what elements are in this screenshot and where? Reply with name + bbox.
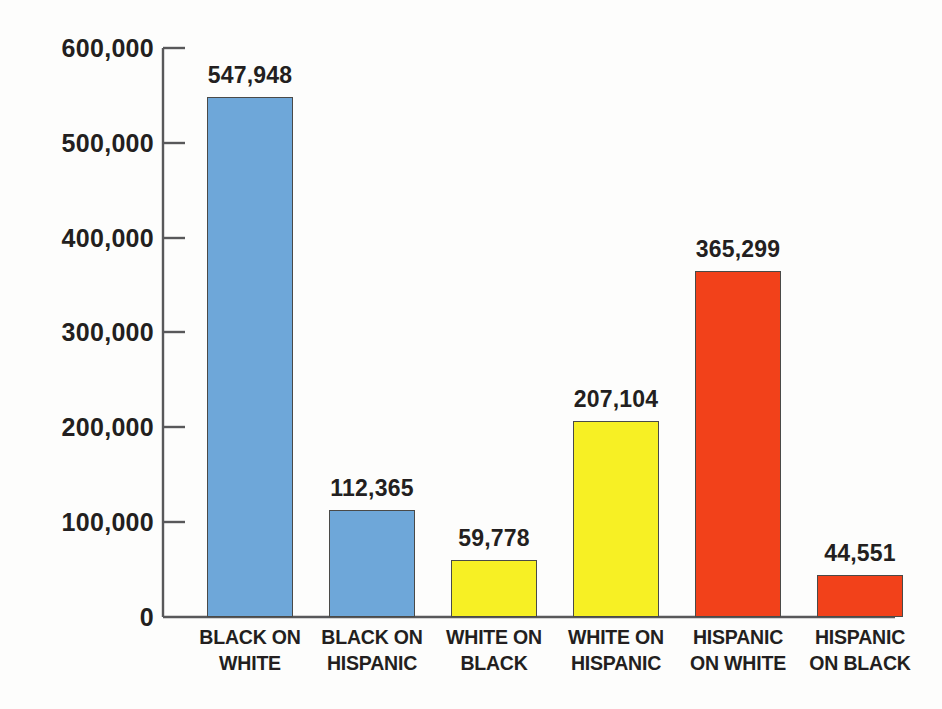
y-tick-label-500000: 500,000 xyxy=(18,129,154,158)
y-tick-label-600000: 600,000 xyxy=(18,34,154,63)
x-category-label-black-on-white: BLACK ON WHITE xyxy=(180,624,320,677)
x-category-line: WHITE ON xyxy=(546,624,686,650)
x-category-line: WHITE xyxy=(180,650,320,676)
bar-value-label: 365,299 xyxy=(696,236,781,263)
x-category-label-black-on-hispanic: BLACK ON HISPANIC xyxy=(302,624,442,677)
x-category-line: HISPANIC xyxy=(790,624,930,650)
x-category-line: ON BLACK xyxy=(790,650,930,676)
bar-rect[interactable] xyxy=(573,421,659,617)
x-category-label-white-on-black: WHITE ON BLACK xyxy=(424,624,564,677)
bar-group-hispanic-on-black[interactable]: 44,551 xyxy=(817,48,903,617)
x-category-line: WHITE ON xyxy=(424,624,564,650)
y-tick-label-300000: 300,000 xyxy=(18,318,154,347)
bar-value-label: 44,551 xyxy=(824,540,896,567)
bar-value-label: 59,778 xyxy=(458,525,530,552)
x-category-line: HISPANIC xyxy=(668,624,808,650)
bar-group-white-on-black[interactable]: 59,778 xyxy=(451,48,537,617)
bar-value-label: 112,365 xyxy=(330,475,413,502)
bar-rect[interactable] xyxy=(817,575,903,617)
y-tick-label-200000: 200,000 xyxy=(18,413,154,442)
x-category-line: HISPANIC xyxy=(302,650,442,676)
x-category-line: HISPANIC xyxy=(546,650,686,676)
x-category-label-white-on-hispanic: WHITE ON HISPANIC xyxy=(546,624,686,677)
x-category-line: BLACK ON xyxy=(180,624,320,650)
bar-rect[interactable] xyxy=(207,97,293,617)
bar-rect[interactable] xyxy=(329,510,415,617)
bar-group-white-on-hispanic[interactable]: 207,104 xyxy=(573,48,659,617)
bar-rect[interactable] xyxy=(695,271,781,617)
x-category-line: ON WHITE xyxy=(668,650,808,676)
x-category-label-hispanic-on-black: HISPANIC ON BLACK xyxy=(790,624,930,677)
bar-group-hispanic-on-white[interactable]: 365,299 xyxy=(695,48,781,617)
x-category-line: BLACK ON xyxy=(302,624,442,650)
x-axis: BLACK ON WHITE BLACK ON HISPANIC WHITE O… xyxy=(163,624,895,704)
bar-group-black-on-hispanic[interactable]: 112,365 xyxy=(329,48,415,617)
bar-chart: 600,000 500,000 400,000 300,000 200,000 … xyxy=(0,0,942,709)
bar-value-label: 547,948 xyxy=(208,62,293,89)
x-category-label-hispanic-on-white: HISPANIC ON WHITE xyxy=(668,624,808,677)
y-tick-label-400000: 400,000 xyxy=(18,224,154,253)
bar-group-black-on-white[interactable]: 547,948 xyxy=(207,48,293,617)
y-tick-label-0: 0 xyxy=(18,603,154,632)
y-axis: 600,000 500,000 400,000 300,000 200,000 … xyxy=(18,0,154,709)
bar-rect[interactable] xyxy=(451,560,537,617)
y-tick-label-100000: 100,000 xyxy=(18,508,154,537)
plot-area: 547,948 112,365 59,778 207,104 365,299 4… xyxy=(163,48,895,617)
bar-value-label: 207,104 xyxy=(574,386,659,413)
x-category-line: BLACK xyxy=(424,650,564,676)
